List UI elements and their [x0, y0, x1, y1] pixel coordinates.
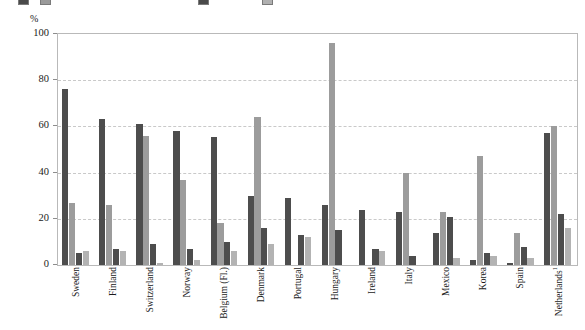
bar [83, 251, 89, 265]
bar [194, 260, 200, 265]
x-tick-label-wrap: Netherlands1 [550, 267, 564, 329]
y-tick-label: 80 [39, 74, 50, 84]
bar-group [396, 34, 423, 265]
bar-group [322, 34, 349, 265]
bar [217, 223, 223, 265]
x-tick-label-wrap: Mexico [439, 267, 453, 329]
bar [261, 228, 267, 265]
bar-group [544, 34, 571, 265]
x-tick-label-wrap: Switzerland [143, 267, 157, 329]
bar [248, 196, 254, 265]
bar [120, 251, 126, 265]
bar [477, 156, 483, 265]
bars-layer [58, 34, 577, 265]
bar [470, 260, 476, 265]
bar [69, 203, 75, 265]
bar [106, 205, 112, 265]
bar [544, 133, 550, 265]
bar [551, 126, 557, 265]
bar-group [62, 34, 89, 265]
bar-group [433, 34, 460, 265]
bar [440, 212, 446, 265]
bar [335, 230, 341, 265]
bar [379, 251, 385, 265]
bar-group [507, 34, 534, 265]
x-tick-label: Switzerland [145, 267, 155, 312]
bar [285, 198, 291, 265]
y-tick-label: 60 [39, 120, 50, 130]
y-axis-unit-label: % [30, 14, 38, 24]
x-tick-label-wrap: Finland [106, 267, 120, 329]
bar [113, 249, 119, 265]
bar [298, 235, 304, 265]
bar [322, 205, 328, 265]
bar [403, 173, 409, 265]
x-tick-label: Belgium (Fl.) [219, 267, 229, 319]
x-tick-label: Finland [108, 267, 118, 296]
bar [268, 244, 274, 265]
x-tick-label-wrap: Portugal [291, 267, 305, 329]
x-tick-label-wrap: Denmark [254, 267, 268, 329]
x-tick-label-wrap: Norway [180, 267, 194, 329]
bar [143, 136, 149, 265]
bar-group [285, 34, 312, 265]
x-tick-label: Norway [182, 267, 192, 298]
bar [484, 253, 490, 265]
x-tick-label: Hungary [330, 267, 340, 300]
bar [150, 244, 156, 265]
bar-group [248, 34, 275, 265]
bar [180, 180, 186, 265]
x-tick-label: Portugal [293, 267, 303, 299]
bar [433, 233, 439, 265]
x-tick-label-wrap: Sweden [69, 267, 83, 329]
bar [157, 263, 163, 265]
bar-group [173, 34, 200, 265]
x-tick-label-wrap: Ireland [365, 267, 379, 329]
y-tick-label: 100 [33, 28, 49, 38]
bar [372, 249, 378, 265]
bar [527, 258, 533, 265]
x-tick-label: Italy [404, 267, 414, 284]
bar [329, 43, 335, 265]
bar [76, 253, 82, 265]
x-tick-label-wrap: Hungary [328, 267, 342, 329]
bar [187, 249, 193, 265]
x-tick-label-wrap: Italy [402, 267, 416, 329]
y-tick-label: 20 [39, 213, 50, 223]
x-tick-label-wrap: Spain [513, 267, 527, 329]
bar [447, 217, 453, 266]
bar [521, 247, 527, 265]
x-axis-labels: SwedenFinlandSwitzerlandNorwayBelgium (F… [58, 267, 577, 330]
bar-group [470, 34, 497, 265]
bar-group [359, 34, 386, 265]
x-tick-label: Spain [515, 267, 525, 289]
bar [514, 233, 520, 265]
y-tick-label: 40 [39, 167, 50, 177]
x-tick-label-wrap: Belgium (Fl.) [217, 267, 231, 329]
bar [396, 212, 402, 265]
x-tick-label: Sweden [71, 267, 81, 297]
bar [62, 89, 68, 265]
bar [359, 210, 365, 265]
bar [231, 251, 237, 265]
bar [490, 256, 496, 265]
bar [558, 214, 564, 265]
bar-group [211, 34, 238, 265]
bar [305, 237, 311, 265]
bar-chart: % 020406080100 SwedenFinlandSwitzerlandN… [0, 0, 585, 330]
y-axis-ticks: 020406080100 [0, 33, 57, 266]
bar [565, 228, 571, 265]
bar [507, 263, 513, 265]
x-tick-label: Denmark [256, 267, 266, 302]
bar [173, 131, 179, 265]
bar-group [136, 34, 163, 265]
bar [211, 137, 217, 265]
x-tick-label-wrap: Korea [476, 267, 490, 329]
x-tick-label: Netherlands1 [551, 267, 564, 316]
y-tick-label: 0 [44, 259, 49, 269]
bar [409, 256, 415, 265]
bar [99, 119, 105, 265]
x-tick-label: Mexico [441, 267, 451, 296]
x-tick-label: Ireland [367, 267, 377, 294]
bar [224, 242, 230, 265]
